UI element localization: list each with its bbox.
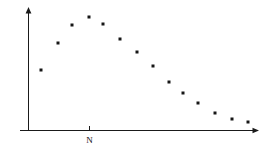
data-point (168, 81, 171, 84)
data-point (231, 118, 234, 121)
data-point (214, 112, 217, 115)
data-point (197, 102, 200, 105)
data-point (57, 42, 60, 45)
data-point (136, 51, 139, 54)
data-point (102, 23, 105, 26)
plot-canvas: N (0, 0, 270, 150)
data-points-group (40, 16, 250, 124)
x-axis-tick-label-n: N (86, 135, 93, 145)
data-point (88, 16, 91, 19)
data-point (40, 69, 43, 72)
scatter-plot-figure: N (0, 0, 270, 150)
data-point (119, 38, 122, 41)
x-axis-arrow-icon (253, 128, 260, 133)
data-point (152, 65, 155, 68)
data-point (247, 121, 250, 124)
data-point (71, 24, 74, 27)
y-axis-arrow-icon (26, 7, 32, 14)
data-point (182, 92, 185, 95)
